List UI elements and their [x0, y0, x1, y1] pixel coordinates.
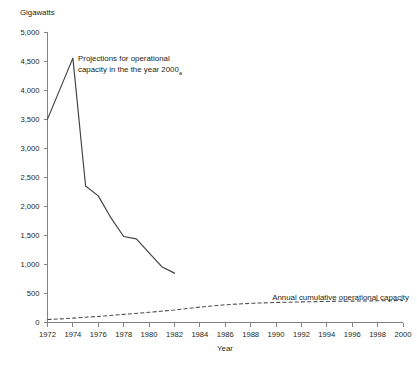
y-tick-label: 3,000	[20, 144, 39, 153]
chart-container: Gigawatts 05001,0001,5002,0002,5003,0003…	[0, 0, 417, 374]
x-tick-label: 1976	[90, 330, 107, 339]
x-tick-label: 1972	[39, 330, 56, 339]
x-axis-title: Year	[217, 344, 233, 353]
y-axis-ticks: 05001,0001,5002,0002,5003,0003,5004,0004…	[20, 28, 47, 328]
x-tick-label: 1974	[64, 330, 81, 339]
x-tick-label: 2000	[395, 330, 412, 339]
x-tick-label: 1984	[191, 330, 208, 339]
x-tick-label: 1980	[141, 330, 158, 339]
projection-annotation: Projections for operational capacity in …	[78, 54, 182, 76]
series-projections-line	[48, 58, 175, 273]
y-tick-label: 1,000	[20, 260, 39, 269]
y-tick-label: 3,500	[20, 115, 39, 124]
x-tick-label: 1986	[217, 330, 234, 339]
projection-annotation-line2-text: capacity in the the year 2000	[78, 65, 180, 74]
x-tick-label: 1998	[369, 330, 386, 339]
x-tick-label: 1994	[318, 330, 335, 339]
y-axis-title: Gigawatts	[20, 8, 55, 17]
y-tick-label: 1,500	[20, 231, 39, 240]
projection-annotation-line1: Projections for operational	[78, 54, 170, 63]
projection-annotation-line2: capacity in the the year 2000a	[78, 65, 182, 76]
x-tick-label: 1978	[115, 330, 132, 339]
y-axis-group: 05001,0001,5002,0002,5003,0003,5004,0004…	[20, 28, 47, 328]
x-axis-group: 1972197419761978198019821984198619881990…	[39, 323, 411, 354]
projection-annotation-footnote-marker: a	[179, 70, 182, 76]
y-tick-label: 2,500	[20, 173, 39, 182]
plot-area	[48, 58, 404, 319]
x-tick-label: 1982	[166, 330, 183, 339]
y-tick-label: 0	[35, 318, 39, 327]
y-tick-label: 2,000	[20, 202, 39, 211]
nuclear-capacity-line-chart: Gigawatts 05001,0001,5002,0002,5003,0003…	[0, 0, 417, 374]
cumulative-series-label: Annual cumulative operational capacity	[272, 293, 409, 302]
x-tick-label: 1992	[293, 330, 310, 339]
x-tick-label: 1990	[268, 330, 285, 339]
series-cumulative-line	[48, 301, 404, 320]
x-axis-ticks: 1972197419761978198019821984198619881990…	[39, 323, 411, 339]
x-tick-label: 1996	[344, 330, 361, 339]
y-tick-label: 4,500	[20, 57, 39, 66]
y-tick-label: 500	[27, 289, 40, 298]
y-tick-label: 5,000	[20, 28, 39, 37]
y-tick-label: 4,000	[20, 86, 39, 95]
x-tick-label: 1988	[242, 330, 259, 339]
